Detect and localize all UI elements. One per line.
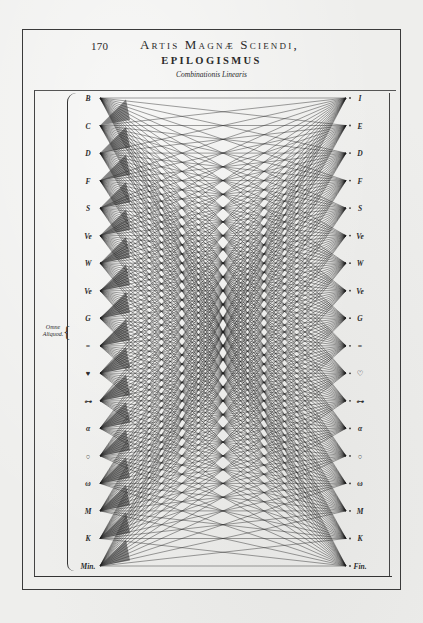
- right-node-dot: [349, 400, 351, 402]
- right-label: D: [357, 149, 362, 158]
- right-node-dot: [349, 345, 351, 347]
- right-label: Ve: [356, 286, 364, 295]
- right-label: ♡: [357, 369, 364, 378]
- right-node-dot: [349, 372, 351, 374]
- left-label: ○: [86, 451, 91, 460]
- right-label: G: [357, 314, 362, 323]
- left-label: B: [85, 94, 90, 103]
- left-fan-wedges: [100, 99, 130, 566]
- right-label: α: [358, 424, 362, 433]
- right-label: S: [358, 204, 362, 213]
- right-label: M: [357, 506, 364, 515]
- right-node-dot: [349, 428, 351, 430]
- right-node-dot: [349, 317, 351, 319]
- left-label: Ve: [84, 231, 92, 240]
- combination-lines: [100, 98, 346, 566]
- left-label: G: [85, 314, 90, 323]
- left-label: Ve: [84, 286, 92, 295]
- right-label: ω: [357, 479, 362, 488]
- right-node-dot: [349, 290, 351, 292]
- right-node-dot: [349, 565, 351, 567]
- right-node-dot: [349, 207, 351, 209]
- left-label: D: [85, 149, 90, 158]
- right-label: Fin.: [353, 562, 366, 571]
- right-node-dot: [349, 235, 351, 237]
- right-label: =: [358, 341, 362, 350]
- right-node-dot: [349, 483, 351, 485]
- right-label: ⊶: [356, 396, 364, 405]
- right-label: W: [357, 259, 364, 268]
- left-label: ♥: [86, 369, 90, 378]
- right-label: K: [357, 534, 362, 543]
- scanned-page: 170 Artis Magnæ Sciendi, EPILOGISMUS Com…: [0, 0, 423, 623]
- right-label: I: [359, 94, 362, 103]
- right-node-dot: [349, 152, 351, 154]
- right-node-dot: [349, 510, 351, 512]
- right-node-dot: [349, 97, 351, 99]
- left-label: S: [86, 204, 90, 213]
- right-node-dot: [349, 180, 351, 182]
- right-label: Ve: [356, 231, 364, 240]
- right-node-dot: [349, 538, 351, 540]
- right-label: E: [357, 121, 362, 130]
- left-label: ω: [85, 479, 90, 488]
- right-node-dot: [349, 455, 351, 457]
- right-label: F: [357, 176, 362, 185]
- left-label: α: [86, 424, 90, 433]
- left-label: ⊶: [84, 396, 92, 405]
- right-label: ○: [358, 451, 363, 460]
- left-label: W: [85, 259, 92, 268]
- left-label: F: [85, 176, 90, 185]
- right-node-dot: [349, 125, 351, 127]
- left-label: Min.: [81, 562, 96, 571]
- left-label: M: [85, 506, 92, 515]
- left-label: =: [86, 341, 90, 350]
- left-label: C: [85, 121, 90, 130]
- right-node-dot: [349, 262, 351, 264]
- left-label: K: [85, 534, 90, 543]
